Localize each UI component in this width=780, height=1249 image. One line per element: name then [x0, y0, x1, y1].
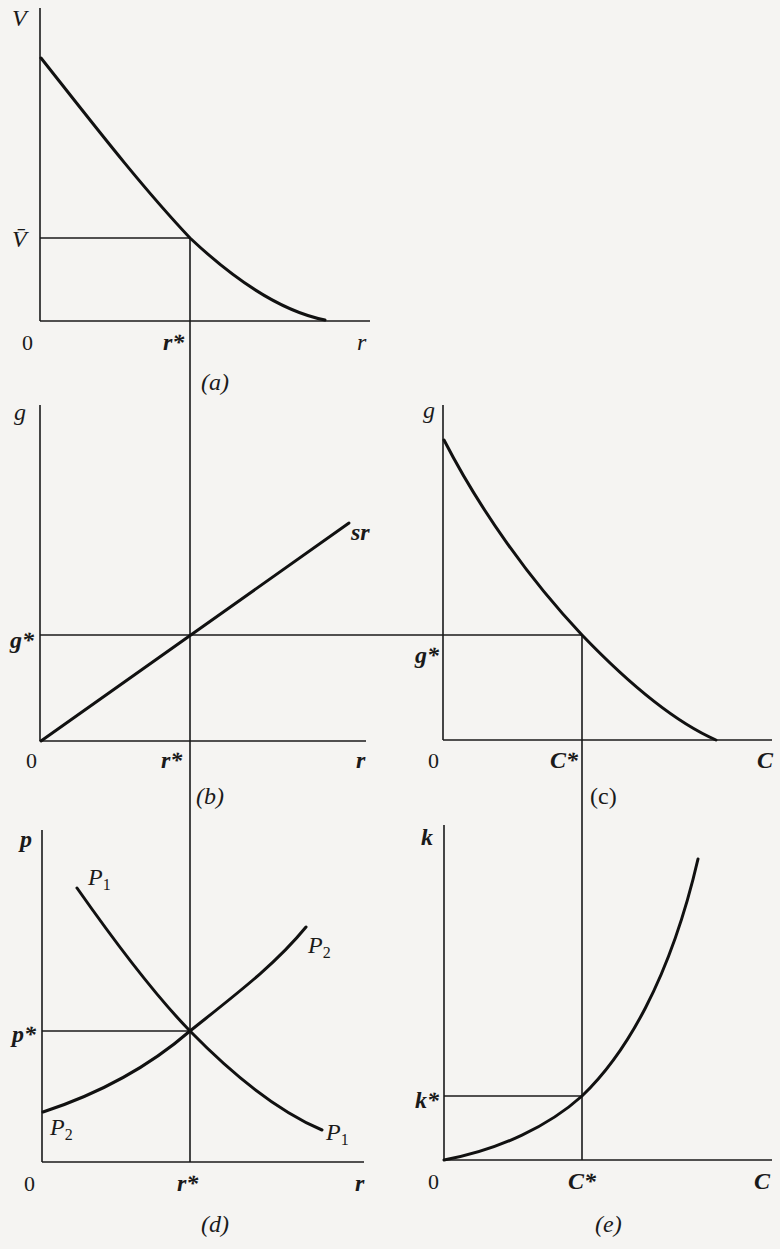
panel-e-k-curve: [444, 859, 698, 1160]
panel-d: p p* P1 P2 P2 P1 0 r* r (d): [10, 826, 365, 1237]
panel-e-y-label: k: [421, 824, 433, 850]
panel-d-p2-curve: [43, 927, 306, 1112]
panel-e-kstar-label: k*: [415, 1087, 440, 1113]
panel-a-origin-label: 0: [22, 330, 33, 355]
panel-d-p2-top-label: P2: [307, 932, 331, 961]
panel-d-p1-bottom-label: P1: [325, 1119, 349, 1148]
panel-a-y-label: V: [12, 5, 29, 31]
panel-e: k k* 0 C* C (e): [415, 824, 772, 1237]
panel-b-gstar-label: g*: [9, 627, 35, 653]
panel-a: V V̄ 0 r* r (a): [12, 5, 370, 395]
panel-a-v-curve: [41, 58, 325, 320]
panel-d-x-label: r: [355, 1170, 365, 1196]
panel-c-y-label: g: [423, 397, 435, 423]
panel-e-origin-label: 0: [428, 1169, 439, 1194]
equilibrium-diagram: V V̄ 0 r* r (a) g g* sr 0 r* r (b) g g* …: [0, 0, 780, 1249]
panel-a-x-label: r: [357, 329, 367, 355]
panel-c: g g* 0 C* C (c): [414, 397, 774, 809]
panel-b-sr-label: sr: [350, 519, 370, 545]
panel-b-sr-line: [41, 523, 349, 741]
panel-e-caption: (e): [595, 1211, 622, 1237]
panel-d-p1-top-label: P1: [87, 864, 111, 893]
panel-c-cstar-label: C*: [550, 747, 579, 773]
panel-e-x-label: C: [754, 1168, 771, 1194]
panel-b-x-label: r: [356, 747, 366, 773]
panel-b-origin-label: 0: [26, 748, 37, 773]
panel-d-p2-bottom-label: P2: [49, 1114, 73, 1143]
panel-b-y-label: g: [14, 399, 26, 425]
panel-b-rstar-label: r*: [161, 747, 183, 773]
panel-c-x-label: C: [757, 747, 774, 773]
panel-d-y-label: p: [18, 826, 32, 852]
panel-c-gstar-label: g*: [414, 642, 440, 668]
panel-a-caption: (a): [201, 369, 229, 395]
panel-c-g-curve: [444, 440, 716, 740]
panel-d-origin-label: 0: [24, 1171, 35, 1196]
panel-d-p1-curve: [77, 888, 322, 1130]
panel-c-caption: (c): [590, 783, 617, 809]
panel-a-vbar-label: V̄: [12, 226, 29, 252]
panel-d-pstar-label: p*: [10, 1021, 37, 1047]
panel-c-origin-label: 0: [428, 748, 439, 773]
panel-d-rstar-label: r*: [177, 1170, 199, 1196]
panel-d-caption: (d): [201, 1211, 229, 1237]
panel-e-cstar-label: C*: [568, 1168, 597, 1194]
panel-a-rstar-label: r*: [163, 329, 185, 355]
panel-b-caption: (b): [196, 783, 224, 809]
